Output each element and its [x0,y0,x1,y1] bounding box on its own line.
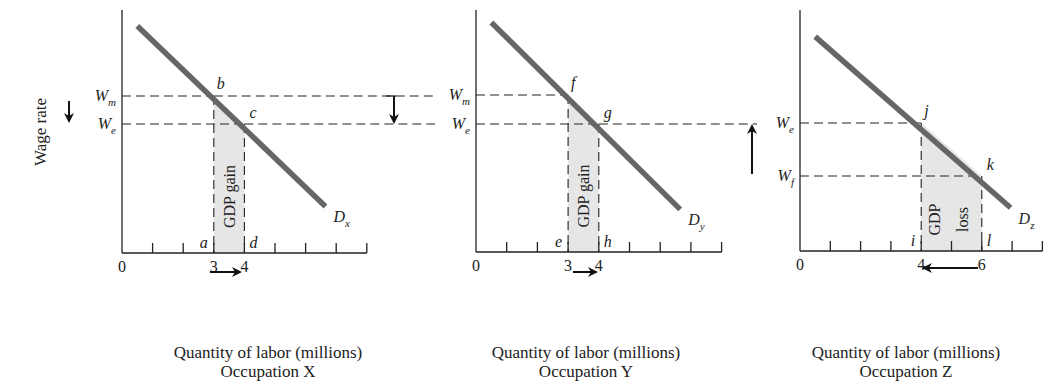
x-tick-label: 3 [564,257,572,274]
shaded-area-label: GDP gain [221,165,239,228]
demand-curve-label: Dy [687,211,705,232]
x-tick-label: 4 [240,258,248,275]
x-axis-label: Quantity of labor (millions) [492,343,680,362]
x-axis-label: Quantity of labor (millions) [812,343,1000,362]
x-axis-label: Quantity of labor (millions) [174,343,362,362]
x-tick-label: 6 [978,256,986,273]
wage-label-We: We [98,115,116,136]
wage-label-We: We [452,115,470,136]
point-label: k [987,156,995,173]
panel-occupation-z: 046WeWfDzjkilGDPlossQuantity of labor (m… [747,10,1042,381]
panel-occupation-x: 034WmWeDxbcadGDP gainQuantity of labor (… [64,10,435,381]
panel-title: Occupation Y [539,362,633,381]
shaded-area-label: loss [954,207,971,232]
labor-market-charts: Wage rate 034WmWeDxbcadGDP gainQuantity … [0,0,1055,384]
wage-label-We: We [776,114,794,135]
demand-curve [815,37,1010,208]
wage-label-Wm: Wm [95,87,116,108]
point-label: f [571,74,578,92]
x-tick-label: 4 [917,256,925,273]
point-label: e [555,233,562,250]
point-label: i [911,232,915,249]
shaded-area-label: GDP [926,203,943,235]
x-tick-label: 0 [796,256,804,273]
point-label: b [217,75,225,92]
x-tick-label: 0 [118,258,126,275]
point-label: j [922,102,929,120]
point-label: g [604,104,612,122]
point-label: h [604,233,612,250]
shaded-area-label: GDP gain [575,165,593,228]
demand-curve-label: Dz [1018,210,1036,231]
panel-title: Occupation X [221,362,316,381]
wage-label-Wf: Wf [778,167,796,188]
x-tick-label: 0 [472,257,480,274]
point-label: d [249,234,258,251]
point-label: a [200,234,208,251]
y-axis-label: Wage rate [31,98,50,166]
point-label: c [249,104,256,121]
demand-curve-label: Dx [332,208,350,229]
panel-title: Occupation Z [860,362,953,381]
panel-occupation-y: 034WmWeDyfgehGDP gainQuantity of labor (… [386,10,757,381]
point-label: l [987,232,992,249]
wage-label-Wm: Wm [449,86,470,107]
